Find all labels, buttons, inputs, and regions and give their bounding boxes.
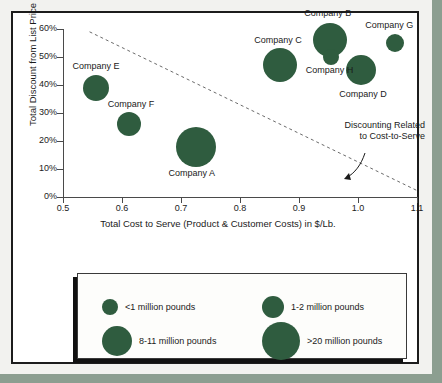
legend-bubble-icon: [102, 326, 132, 356]
point-label-company-d: Company D: [339, 89, 387, 99]
legend-item: 8-11 million pounds: [102, 326, 216, 356]
x-axis-title: Total Cost to Serve (Product & Customer …: [43, 218, 393, 229]
legend-label: 8-11 million pounds: [139, 336, 216, 346]
bubble-company-a[interactable]: [176, 127, 216, 167]
point-label-company-f: Company F: [108, 99, 155, 109]
point-label-company-a: Company A: [168, 168, 215, 178]
legend-bubble-icon: [262, 322, 300, 360]
legend-label: <1 million pounds: [125, 302, 195, 312]
annotation-arrowhead: [344, 173, 351, 180]
legend: <1 million pounds1-2 million pounds8-11 …: [77, 273, 407, 359]
trendline-path: [90, 32, 419, 192]
legend-item: <1 million pounds: [102, 292, 195, 322]
chart-frame: 0%10%20%30%40%50%60% 0.50.60.70.80.91.01…: [11, 11, 419, 364]
point-label-company-h: Company H: [306, 65, 354, 75]
legend-label: >20 million pounds: [307, 336, 382, 346]
legend-label: 1-2 million pounds: [291, 302, 364, 312]
point-label-company-g: Company G: [365, 20, 413, 30]
legend-bubble-icon: [262, 296, 284, 318]
annotation-line-1: Discounting Related: [305, 120, 425, 131]
chart-annotation: Discounting Related to Cost-to-Serve: [305, 120, 425, 143]
annotation-line-2: to Cost-to-Serve: [305, 131, 425, 142]
legend-item: >20 million pounds: [262, 326, 382, 356]
legend-item: 1-2 million pounds: [262, 292, 364, 322]
legend-bubble-icon: [102, 299, 118, 315]
trendline: [13, 13, 417, 213]
point-label-company-b: Company B: [304, 8, 351, 18]
point-label-company-c: Company C: [254, 35, 302, 45]
bubble-company-e[interactable]: [83, 75, 109, 101]
point-label-company-e: Company E: [73, 61, 120, 71]
